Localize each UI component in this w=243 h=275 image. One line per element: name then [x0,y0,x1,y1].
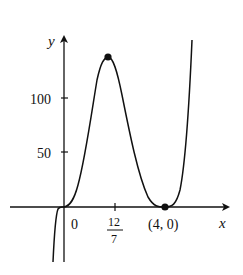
y-tick-label-100: 100 [30,92,51,107]
local-max-point [104,53,111,60]
x-axis-label: x [218,215,226,231]
y-tick-label-50: 50 [37,146,51,161]
x-tick-label-12-num: 12 [108,215,120,229]
x-tick-label-4-0: (4, 0) [148,217,179,233]
x-tick-label-0: 0 [71,217,78,232]
x-tick-label-7-den: 7 [111,232,117,246]
local-min-point [161,203,168,210]
chart-canvas: y x 100 50 0 12 7 (4, 0) [0,0,243,275]
y-axis-label: y [46,33,55,49]
